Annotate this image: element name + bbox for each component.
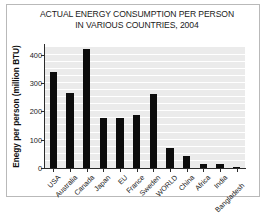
x-tick-label-china: China xyxy=(176,173,196,193)
x-tick-label-africa: Africa xyxy=(193,173,212,192)
x-tick-label-japan: Japan xyxy=(92,173,112,193)
chart-figure: ACTUAL ENERGY CONSUMPTION PER PERSON IN … xyxy=(0,0,266,205)
x-axis-labels: USAAustraliaCanadaJapanEUFranceSwedenWOR… xyxy=(0,0,266,205)
x-tick-label-india: India xyxy=(212,173,229,190)
